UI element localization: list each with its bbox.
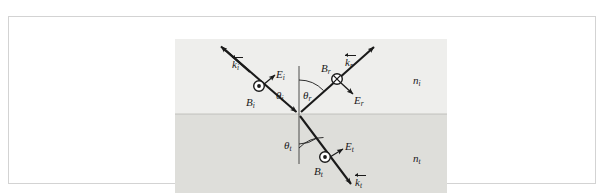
label-k-reflected: kr (345, 55, 353, 69)
label-k-transmitted: kt (355, 175, 362, 189)
clipped-top-text: ― ― ― ― ― ― ― ― ― ― ― (12, 0, 182, 3)
optics-figure-panel: ki Ei Bi θi θr kr Br Er (175, 39, 447, 193)
page-frame: ki Ei Bi θi θr kr Br Er (8, 16, 596, 184)
label-b-transmitted: Bt (314, 166, 323, 178)
label-theta-reflected: θr (303, 90, 311, 102)
e-field-incident-arrow (263, 75, 275, 85)
label-theta-incident: θi (276, 90, 284, 102)
e-field-reflected-arrow (341, 83, 353, 94)
label-e-reflected: Er (354, 95, 364, 107)
label-k-incident: ki (232, 57, 239, 71)
label-refractive-index-transmitted: nt (413, 153, 421, 165)
label-e-transmitted: Et (345, 141, 354, 153)
e-field-transmitted-arrow (330, 149, 343, 157)
b-field-transmitted-dot-icon (323, 155, 327, 159)
label-b-incident: Bi (246, 97, 255, 109)
label-refractive-index-incident: ni (413, 75, 421, 87)
label-e-incident: Ei (276, 69, 285, 81)
label-theta-transmitted: θt (284, 140, 292, 152)
b-field-incident-dot-icon (257, 84, 261, 88)
transmitted-ray (300, 116, 351, 184)
label-b-reflected: Br (321, 63, 331, 75)
figure-vector-layer (175, 39, 447, 193)
